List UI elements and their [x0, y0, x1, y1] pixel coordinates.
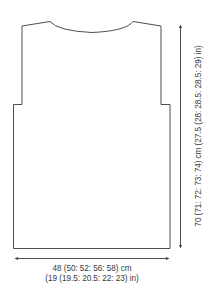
- arrowhead-left-icon: [15, 257, 19, 260]
- arrowhead-up-icon: [179, 25, 182, 29]
- length-dimension-arrow: [179, 25, 182, 249]
- body-panel-outline: [14, 22, 171, 249]
- width-dimension-arrow: [15, 257, 170, 260]
- schematic-diagram: [0, 0, 213, 298]
- length-measurement: 70 (71: 72: 73: 74) cm (27.5 (28: 28.5: …: [194, 1, 204, 271]
- arrowhead-down-icon: [179, 245, 182, 249]
- arrowhead-right-icon: [166, 257, 170, 260]
- width-measurement-cm: 48 (50: 52: 56: 58) cm: [10, 264, 174, 274]
- width-measurement-in: (19 (19.5: 20.5: 22: 23) in): [10, 274, 174, 284]
